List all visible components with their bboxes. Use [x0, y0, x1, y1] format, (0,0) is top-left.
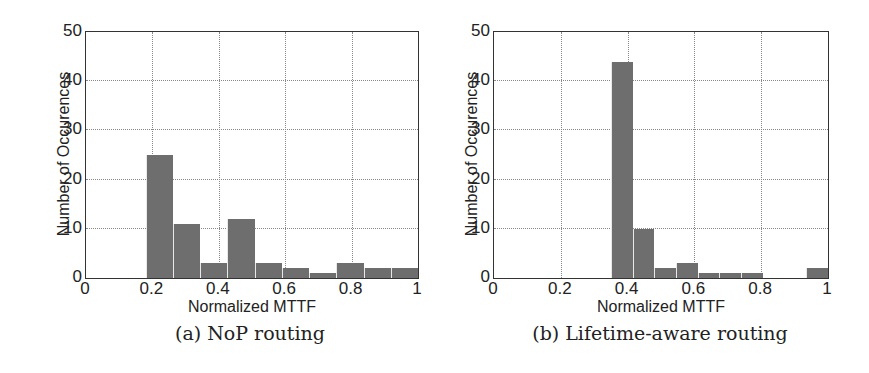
caption-b: (b) Lifetime-aware routing	[495, 322, 825, 344]
gridline-horizontal	[494, 80, 828, 81]
x-tick-label: 0.4	[198, 280, 238, 297]
x-tick-label: 1	[807, 280, 847, 297]
gridline-vertical	[219, 32, 220, 278]
gridline-horizontal	[86, 129, 418, 130]
gridline-horizontal	[494, 129, 828, 130]
x-tick-label: 0	[473, 280, 513, 297]
gridline-vertical	[694, 32, 695, 278]
histogram-bar	[806, 268, 828, 278]
histogram-bar	[146, 155, 173, 278]
x-axis-label-b: Normalized MTTF	[561, 298, 761, 316]
gridline-horizontal	[494, 228, 828, 229]
histogram-bar	[676, 263, 698, 278]
x-tick-label: 0.2	[540, 280, 580, 297]
x-tick-label: 0.4	[607, 280, 647, 297]
panel-b: 01020304050 00.20.40.60.81 Number of Occ…	[435, 0, 869, 373]
gridline-horizontal	[86, 179, 418, 180]
histogram-bar	[255, 263, 282, 278]
histogram-bar	[611, 62, 633, 278]
gridline-vertical	[761, 32, 762, 278]
gridline-vertical	[352, 32, 353, 278]
x-tick-label: 1	[397, 280, 437, 297]
gridline-vertical	[285, 32, 286, 278]
histogram-bar	[309, 273, 336, 278]
x-tick-label: 0.2	[131, 280, 171, 297]
x-tick-label: 0.6	[264, 280, 304, 297]
gridline-vertical	[561, 32, 562, 278]
histogram-bar	[391, 268, 418, 278]
histogram-bar	[173, 224, 200, 278]
y-axis-label-a: Number of Occurences	[55, 54, 73, 254]
x-tick-label: 0.8	[331, 280, 371, 297]
histogram-bar	[336, 263, 363, 278]
histogram-bar	[200, 263, 227, 278]
plot-area-a	[85, 31, 419, 279]
x-tick-label: 0	[65, 280, 105, 297]
gridline-horizontal	[494, 179, 828, 180]
caption-a: (a) NoP routing	[120, 322, 380, 344]
y-tick-label: 50	[52, 22, 82, 39]
x-axis-label-a: Normalized MTTF	[152, 298, 352, 316]
panel-a: 01020304050 00.20.40.60.81 Number of Occ…	[0, 0, 434, 373]
histogram-bar	[227, 219, 254, 278]
histogram-bar	[741, 273, 763, 278]
histogram-bar	[654, 268, 676, 278]
x-tick-label: 0.6	[673, 280, 713, 297]
histogram-bar	[282, 268, 309, 278]
histogram-bar	[698, 273, 720, 278]
histogram-bar	[633, 229, 655, 278]
histogram-bar	[364, 268, 391, 278]
x-tick-label: 0.8	[740, 280, 780, 297]
plot-area-b	[493, 31, 829, 279]
histogram-bar	[719, 273, 741, 278]
gridline-horizontal	[86, 80, 418, 81]
y-tick-label: 50	[460, 22, 490, 39]
y-axis-label-b: Number of Occurences	[463, 54, 481, 254]
